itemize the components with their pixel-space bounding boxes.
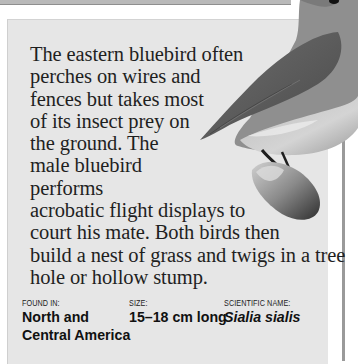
fact-scientific-name: SCIENTIFIC NAME: Sialia sialis <box>224 298 302 326</box>
description-line: court his mate. Both birds then <box>30 221 330 243</box>
description-text: The eastern bluebird often perches on wi… <box>30 43 330 288</box>
fact-label: SIZE: <box>129 298 212 308</box>
description-line: build a nest of grass and twigs in a tre… <box>30 244 330 266</box>
fact-value: 15–18 cm long <box>129 309 227 326</box>
description-line: The eastern bluebird often <box>30 43 330 65</box>
description-line: perches on wires and <box>30 65 330 87</box>
description-line: hole or hollow stump. <box>30 266 330 288</box>
fact-size: SIZE: 15–18 cm long <box>129 298 227 326</box>
fact-value: Sialia sialis <box>224 309 302 326</box>
top-divider-band <box>0 0 291 5</box>
description-line: of its insect prey on <box>30 110 330 132</box>
fact-found-in: FOUND IN: North and Central America <box>22 298 130 343</box>
description-line: performs <box>30 177 330 199</box>
description-line: male bluebird <box>30 154 330 176</box>
bird-eye <box>329 0 339 4</box>
description-line: acrobatic flight displays to <box>30 199 330 221</box>
fact-value: Central America <box>22 327 130 344</box>
page-edge-rule <box>342 124 345 361</box>
fact-label: SCIENTIFIC NAME: <box>224 298 290 308</box>
fact-label: FOUND IN: <box>22 298 114 308</box>
description-line: fences but takes most <box>30 88 330 110</box>
description-line: the ground. The <box>30 132 330 154</box>
fact-value: North and <box>22 309 130 326</box>
